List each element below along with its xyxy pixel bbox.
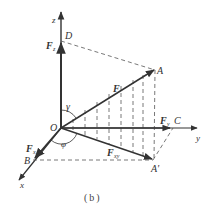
origin-label: O bbox=[50, 122, 57, 133]
point-B-label: B bbox=[24, 155, 30, 166]
force-Fy-label: F bbox=[159, 115, 167, 126]
z-axis-label: z bbox=[51, 15, 56, 25]
force-Fxy-sub: xy bbox=[113, 153, 120, 159]
point-A-prime-label: A' bbox=[150, 163, 160, 174]
force-Fz-sub: z bbox=[52, 46, 56, 52]
angle-phi-label: φ bbox=[61, 139, 66, 149]
force-Fy-sub: y bbox=[166, 121, 170, 127]
force-Fz-label: F bbox=[45, 40, 53, 51]
force-Fxy-label: F bbox=[106, 147, 114, 158]
x-axis-label: x bbox=[19, 180, 24, 190]
force-decomposition-diagram: z y x D A A' C B O F F z F y F x F xy γ … bbox=[0, 0, 216, 217]
force-F-label: F bbox=[112, 83, 120, 94]
y-axis-label: y bbox=[195, 133, 200, 143]
force-Fx-sub: x bbox=[32, 149, 36, 155]
point-A-label: A bbox=[156, 65, 164, 76]
point-D-label: D bbox=[64, 30, 73, 41]
force-F bbox=[61, 70, 154, 128]
point-C-label: C bbox=[174, 115, 181, 126]
angle-gamma-label: γ bbox=[66, 101, 71, 112]
force-Fx-label: F bbox=[25, 143, 33, 154]
figure-caption: (b) bbox=[84, 192, 102, 204]
